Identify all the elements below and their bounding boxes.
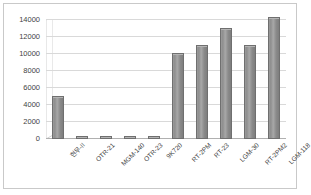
x-axis-category-label: 9K720 bbox=[166, 142, 184, 160]
y-axis-tick-label: 8000 bbox=[4, 67, 40, 75]
bar-top-face bbox=[76, 136, 88, 138]
bar-body bbox=[196, 46, 208, 140]
x-axis-category-label: LGM-118 bbox=[288, 142, 303, 166]
y-axis-tick-label: 14000 bbox=[4, 16, 40, 24]
bar-top-face bbox=[244, 45, 256, 47]
bar bbox=[172, 54, 184, 139]
bar bbox=[52, 97, 64, 140]
bar bbox=[244, 46, 256, 140]
y-axis-tick-label: 2000 bbox=[4, 118, 40, 126]
bar-top-face bbox=[148, 136, 160, 138]
y-axis-tick-label: 0 bbox=[4, 135, 40, 143]
bar-top-face bbox=[220, 28, 232, 30]
x-axis-category-labels: 현무-IIOTR-21MGM-140OTR-239K720RT-2PMRT-23… bbox=[46, 140, 296, 195]
bar bbox=[220, 29, 232, 140]
bar-body bbox=[52, 97, 64, 140]
y-axis-tick-label: 12000 bbox=[4, 33, 40, 41]
x-axis-category-label: RT-2PM2 bbox=[264, 142, 288, 166]
y-axis-tick-labels: 02000400060008000100001200014000 bbox=[4, 20, 42, 139]
y-axis-tick-label: 6000 bbox=[4, 84, 40, 92]
bar-series bbox=[46, 20, 286, 139]
x-axis-category-label: OTR-21 bbox=[95, 142, 116, 163]
x-axis-category-label: MGM-140 bbox=[121, 142, 146, 167]
bar-body bbox=[268, 18, 280, 139]
bar-top-face bbox=[52, 96, 64, 98]
bar-top-face bbox=[124, 136, 136, 138]
bar-top-face bbox=[268, 17, 280, 19]
x-axis-category-label: LGM-30 bbox=[239, 142, 261, 164]
x-axis-category-label: OTR-23 bbox=[143, 142, 164, 163]
bar bbox=[196, 46, 208, 140]
y-axis-tick-label: 10000 bbox=[4, 50, 40, 58]
bar-body bbox=[172, 54, 184, 139]
bar bbox=[100, 137, 112, 139]
bar-body bbox=[220, 29, 232, 140]
y-axis-tick-label: 4000 bbox=[4, 101, 40, 109]
bar bbox=[268, 18, 280, 139]
x-axis-category-label: RT-2PM bbox=[191, 142, 213, 164]
bar-top-face bbox=[196, 45, 208, 47]
bar bbox=[148, 137, 160, 139]
bar-top-face bbox=[100, 136, 112, 138]
bar-top-face bbox=[172, 53, 184, 55]
bar bbox=[76, 137, 88, 139]
x-axis-category-label: RT-23 bbox=[213, 142, 230, 159]
bar bbox=[124, 137, 136, 139]
x-axis-category-label: 현무-II bbox=[69, 142, 86, 159]
chart-plot-area bbox=[46, 20, 286, 139]
chart-frame: 02000400060008000100001200014000 현무-IIOT… bbox=[3, 3, 297, 189]
bar-body bbox=[244, 46, 256, 140]
